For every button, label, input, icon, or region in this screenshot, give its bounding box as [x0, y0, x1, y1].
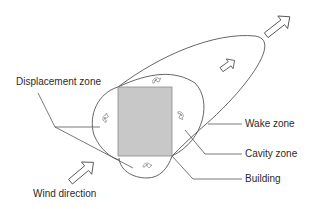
cavity-zone-leader	[185, 130, 242, 154]
displacement-zone-label: Displacement zone	[16, 76, 101, 88]
displacement-zone-leader	[38, 93, 100, 127]
recirculation-arrow-bottom	[143, 163, 152, 168]
wind-direction-label: Wind direction	[33, 188, 96, 200]
cavity-zone-bottom-arc	[119, 156, 172, 178]
recirculation-arrow-right	[177, 111, 185, 121]
building-label: Building	[245, 173, 281, 185]
cavity-zone-label: Cavity zone	[245, 148, 297, 160]
building	[118, 87, 172, 156]
wake-flow-arrow	[218, 55, 238, 74]
recirculation-arrow-top	[152, 76, 162, 84]
wake-zone-label: Wake zone	[245, 118, 295, 130]
building-leader	[172, 156, 242, 179]
wind-direction-arrow	[65, 156, 98, 188]
building-airflow-diagram: Displacement zone Wake zone Cavity zone …	[0, 0, 313, 209]
recirculation-arrow-left	[102, 113, 109, 123]
outflow-arrow	[261, 10, 294, 41]
